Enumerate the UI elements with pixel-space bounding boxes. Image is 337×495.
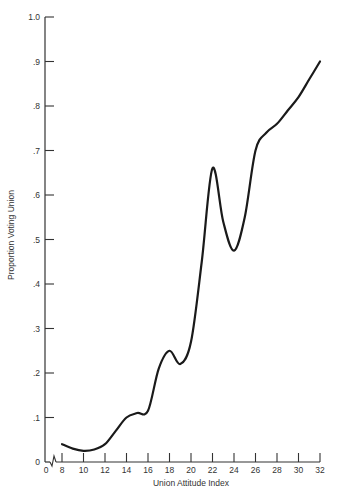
y-tick-label: .7 [33,146,40,156]
x-tick-label: 18 [165,465,175,475]
x-tick-label: 12 [100,465,110,475]
y-axis: 0.1.2.3.4.5.6.7.8.91.0 [28,12,54,467]
y-tick-label: .6 [33,190,40,200]
x-tick-label: 24 [229,465,239,475]
x-tick-label: 0 [44,465,49,475]
y-tick-label: .2 [33,368,40,378]
data-curve [62,62,320,451]
x-tick-label: 8 [60,465,65,475]
y-tick-label: 1.0 [28,12,40,22]
x-axis-title: Union Attitude Index [153,478,230,488]
x-tick-label: 30 [294,465,304,475]
x-tick-label: 14 [122,465,132,475]
x-tick-label: 10 [79,465,89,475]
x-tick-label: 26 [251,465,261,475]
y-tick-label: .5 [33,235,40,245]
y-tick-label: .3 [33,324,40,334]
y-tick-label: .1 [33,413,40,423]
line-chart: 0.1.2.3.4.5.6.7.8.91.0 08101214161820222… [0,0,337,495]
x-tick-label: 28 [272,465,282,475]
x-axis: 08101214161820222426283032 [44,453,325,475]
x-tick-label: 16 [143,465,153,475]
x-tick-label: 32 [315,465,325,475]
y-axis-title: Proportion Voting Union [6,190,16,280]
axis-break-icon [50,456,56,466]
y-tick-label: .4 [33,279,40,289]
y-tick-label: 0 [35,457,40,467]
x-tick-label: 22 [208,465,218,475]
y-tick-label: .8 [33,101,40,111]
y-tick-label: .9 [33,57,40,67]
x-tick-label: 20 [186,465,196,475]
